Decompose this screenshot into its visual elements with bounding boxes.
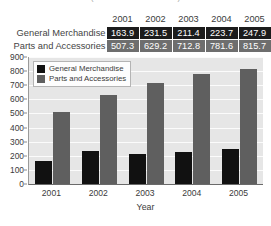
- bar-parts-and-accessories-2001: [53, 112, 70, 184]
- y-axis-tick: [24, 184, 27, 185]
- y-axis-label: 400: [10, 123, 24, 131]
- y-axis-tick: [24, 155, 27, 156]
- y-axis-tick: [24, 169, 27, 170]
- x-axis-label-2005: 2005: [229, 188, 248, 198]
- cell-pa-2005: 815.7: [238, 39, 271, 52]
- row-label-general-merchandise: General Merchandise: [0, 26, 106, 39]
- x-axis-label-2002: 2002: [89, 188, 108, 198]
- table-header-row: 2001 2002 2003 2004 2005: [0, 13, 271, 26]
- x-axis-label-2003: 2003: [135, 188, 154, 198]
- x-axis-label-2004: 2004: [182, 188, 201, 198]
- table-corner-cell: [0, 13, 106, 26]
- y-axis-tick: [24, 71, 27, 72]
- y-axis-label: 800: [10, 67, 24, 75]
- column-header-2001: 2001: [106, 13, 139, 26]
- y-axis-tick: [24, 113, 27, 114]
- bar-general-merchandise-2003: [129, 154, 146, 184]
- cell-gm-2001: 163.9: [106, 26, 139, 39]
- y-axis-label: 500: [10, 109, 24, 117]
- bar-parts-and-accessories-2002: [100, 95, 117, 184]
- y-axis-label: 100: [10, 166, 24, 174]
- column-header-2003: 2003: [172, 13, 205, 26]
- cell-gm-2002: 231.5: [139, 26, 172, 39]
- bar-general-merchandise-2004: [175, 152, 192, 184]
- y-axis-tick: [24, 57, 27, 58]
- table-row: Parts and Accessories 507.3 629.2 712.8 …: [0, 39, 271, 52]
- bar-chart: 0100200300400500600700800900 General Mer…: [0, 57, 271, 226]
- y-axis-tick: [24, 141, 27, 142]
- y-axis-label: 200: [10, 152, 24, 160]
- data-table: 2001 2002 2003 2004 2005 General Merchan…: [0, 13, 271, 53]
- table-row: General Merchandise 163.9 231.5 211.4 22…: [0, 26, 271, 39]
- legend-swatch-icon-parts-and-accessories: [37, 75, 45, 83]
- x-axis-label-2001: 2001: [42, 188, 61, 198]
- x-axis-title: Year: [28, 202, 263, 212]
- y-axis-label: 300: [10, 137, 24, 145]
- column-header-2004: 2004: [205, 13, 238, 26]
- bar-parts-and-accessories-2005: [240, 69, 257, 184]
- chart-title-clipped: (dollar amounts in millions): [0, 0, 271, 7]
- cell-pa-2001: 507.3: [106, 39, 139, 52]
- cell-gm-2004: 223.7: [205, 26, 238, 39]
- cell-pa-2004: 781.6: [205, 39, 238, 52]
- plot-area: General Merchandise Parts and Accessorie…: [28, 57, 263, 185]
- x-axis: 20012002200320042005: [28, 188, 263, 200]
- y-axis-tick: [24, 85, 27, 86]
- bar-general-merchandise-2002: [82, 151, 99, 184]
- row-label-parts-and-accessories: Parts and Accessories: [0, 39, 106, 52]
- legend-label-general-merchandise: General Merchandise: [49, 65, 124, 73]
- gridline: [29, 57, 263, 58]
- cell-pa-2003: 712.8: [172, 39, 205, 52]
- cell-gm-2005: 247.9: [238, 26, 271, 39]
- legend-item-parts-and-accessories: Parts and Accessories: [37, 74, 126, 84]
- legend-swatch-icon-general-merchandise: [37, 65, 45, 73]
- bar-parts-and-accessories-2003: [147, 83, 164, 184]
- column-header-2005: 2005: [238, 13, 271, 26]
- bar-general-merchandise-2001: [35, 161, 52, 184]
- legend-label-parts-and-accessories: Parts and Accessories: [49, 75, 126, 83]
- bar-general-merchandise-2005: [222, 149, 239, 184]
- chart-title-text: (dollar amounts in millions): [0, 0, 271, 2]
- y-axis-tick: [24, 99, 27, 100]
- cell-pa-2002: 629.2: [139, 39, 172, 52]
- y-axis: 0100200300400500600700800900: [0, 57, 27, 185]
- y-axis-label: 600: [10, 95, 24, 103]
- chart-legend: General Merchandise Parts and Accessorie…: [33, 61, 131, 87]
- y-axis-tick: [24, 127, 27, 128]
- legend-item-general-merchandise: General Merchandise: [37, 64, 126, 74]
- y-axis-label: 700: [10, 81, 24, 89]
- column-header-2002: 2002: [139, 13, 172, 26]
- y-axis-label: 900: [10, 53, 24, 61]
- bar-parts-and-accessories-2004: [193, 74, 210, 184]
- cell-gm-2003: 211.4: [172, 26, 205, 39]
